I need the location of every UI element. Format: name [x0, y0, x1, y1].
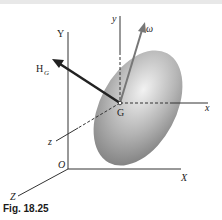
label-z: z: [47, 136, 52, 147]
label-y: y: [111, 13, 117, 24]
omega-arrowhead-icon: [138, 22, 146, 33]
label-G: G: [117, 107, 124, 118]
label-x: x: [204, 102, 210, 113]
label-X: X: [180, 172, 188, 183]
label-H-subscript: G: [44, 69, 49, 77]
figure-caption: Fig. 18.25: [3, 203, 49, 214]
z-axis-outer: [56, 128, 78, 141]
label-Z: Z: [10, 191, 16, 202]
label-omega: ω: [146, 23, 153, 34]
center-of-mass-point: [118, 101, 122, 105]
ellipsoid-body: [75, 35, 200, 180]
Z-axis: [18, 169, 68, 196]
label-H: H: [36, 63, 43, 74]
label-Y: Y: [57, 28, 64, 39]
rigid-body-diagram: Y y ω H G G x z O X Z: [0, 0, 222, 220]
label-O: O: [58, 159, 65, 170]
